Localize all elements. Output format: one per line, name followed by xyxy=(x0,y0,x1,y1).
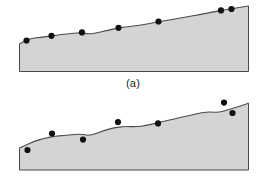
terrain-profile-svg-b xyxy=(0,98,266,196)
sample-point-6 xyxy=(218,7,224,13)
figure-root: (a) (b) xyxy=(0,0,266,196)
sample-point-4 xyxy=(115,25,121,31)
sample-point-3 xyxy=(79,29,85,35)
sample-point-2 xyxy=(49,131,55,137)
sample-point-5 xyxy=(155,18,161,24)
sample-point-5 xyxy=(155,120,161,126)
sample-point-4 xyxy=(115,119,121,125)
panel-caption-a: (a) xyxy=(0,77,266,90)
sample-point-2 xyxy=(48,33,54,39)
terrain-profile-panel-a: (a) xyxy=(0,0,266,98)
sample-point-1 xyxy=(23,37,29,43)
sample-point-7 xyxy=(228,6,234,12)
terrain-fill xyxy=(20,6,249,72)
sample-point-1 xyxy=(24,147,30,153)
sample-point-7 xyxy=(229,110,235,116)
terrain-profile-panel-b: (b) xyxy=(0,98,266,196)
sample-point-6 xyxy=(221,100,227,106)
sample-point-3 xyxy=(80,137,86,143)
